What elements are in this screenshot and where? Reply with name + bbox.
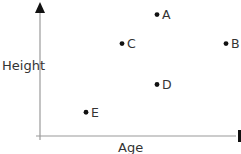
data-point-c (120, 41, 125, 46)
y-axis-label: Height (2, 58, 45, 73)
point-label-c: C (127, 36, 136, 51)
x-axis-arrow-icon (238, 130, 241, 142)
data-point-a (155, 12, 160, 17)
data-point-e (84, 110, 89, 115)
data-points: ABCDE (84, 7, 240, 120)
data-point-b (224, 41, 229, 46)
y-axis-arrow-icon (35, 2, 45, 13)
data-point-d (155, 82, 160, 87)
point-label-d: D (162, 77, 172, 92)
point-label-e: E (91, 105, 99, 120)
point-label-a: A (162, 7, 171, 22)
scatter-chart: Height Age ABCDE (0, 0, 241, 154)
x-axis-label: Age (118, 140, 143, 154)
point-label-b: B (231, 36, 240, 51)
